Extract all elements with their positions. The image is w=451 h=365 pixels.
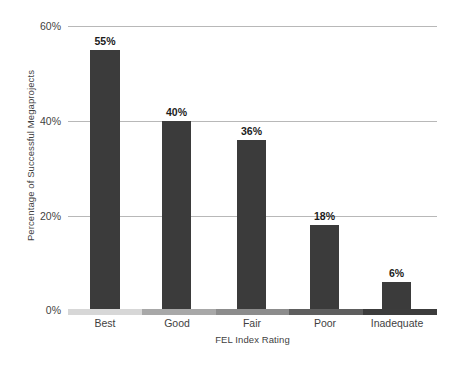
x-axis-title: FEL Index Rating (68, 334, 437, 345)
x-axis-band-segment-best (68, 309, 142, 315)
bar-value-fair: 36% (241, 125, 262, 137)
plot-area: 60% 40% 20% 0% 55% 40% 36% 18% (68, 26, 437, 311)
x-tick-label-best: Best (94, 317, 115, 329)
bar-fair[interactable] (237, 140, 266, 311)
x-axis-labels: Best Good Fair Poor Inadequate (68, 317, 437, 332)
bar-group-good: 40% (162, 26, 191, 311)
x-axis-band-segment-fair (216, 309, 290, 315)
x-axis-band-segment-inadequate (363, 309, 437, 315)
y-axis-title: Percentage of Successful Megaprojects (22, 0, 38, 311)
bar-inadequate[interactable] (382, 282, 411, 311)
y-tick-label-20: 20% (40, 210, 61, 222)
x-tick-label-poor: Poor (314, 317, 336, 329)
bar-good[interactable] (162, 121, 191, 311)
y-tick-label-40: 40% (40, 115, 61, 127)
bars-layer: 55% 40% 36% 18% 6% (68, 26, 437, 311)
y-tick-label-0: 0% (46, 304, 61, 316)
y-tick-label-60: 60% (40, 20, 61, 32)
bar-value-inadequate: 6% (389, 267, 404, 279)
bar-value-poor: 18% (314, 210, 335, 222)
x-tick-label-fair: Fair (243, 317, 261, 329)
x-tick-label-good: Good (164, 317, 190, 329)
bar-chart: Percentage of Successful Megaprojects 60… (0, 0, 451, 365)
x-tick-label-inadequate: Inadequate (371, 317, 424, 329)
bar-value-best: 55% (94, 35, 115, 47)
bar-poor[interactable] (310, 225, 339, 311)
bar-value-good: 40% (166, 106, 187, 118)
bar-group-fair: 36% (237, 26, 266, 311)
x-axis-band-segment-poor (289, 309, 363, 315)
bar-group-best: 55% (90, 26, 120, 311)
x-axis-band-segment-good (142, 309, 216, 315)
x-axis-band (68, 309, 437, 315)
bar-best[interactable] (90, 50, 120, 311)
bar-group-inadequate: 6% (382, 26, 411, 311)
bar-group-poor: 18% (310, 26, 339, 311)
